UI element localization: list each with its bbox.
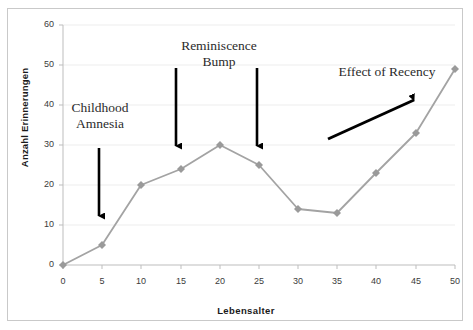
annotation-effect-of-recency: Effect of Recency (322, 64, 452, 80)
chart-figure: 60 50 40 30 20 10 0 0 5 10 15 20 25 30 3… (0, 0, 473, 330)
x-tick-label: 0 (50, 276, 76, 286)
x-tick-label: 45 (403, 276, 429, 286)
x-tick-label: 20 (207, 276, 233, 286)
annotation-reminiscence-line1: Reminiscence (181, 38, 257, 53)
arrow-effect-of-recency (328, 100, 414, 139)
annotation-reminiscence-line2: Bump (202, 54, 235, 69)
data-point-markers (59, 65, 459, 269)
x-axis-title: Lebensalter (36, 305, 456, 316)
annotation-childhood-line2: Amnesia (76, 116, 124, 131)
y-tick-marks (59, 25, 63, 265)
x-tick-marks (63, 265, 455, 269)
y-tick-label: 20 (28, 179, 54, 189)
x-tick-label: 50 (442, 276, 468, 286)
annotation-reminiscence-bump: Reminiscence Bump (159, 38, 279, 71)
annotation-childhood-line1: Childhood (71, 100, 128, 115)
x-tick-label: 30 (285, 276, 311, 286)
x-tick-label: 40 (363, 276, 389, 286)
y-tick-label: 0 (28, 259, 54, 269)
x-tick-label: 5 (89, 276, 115, 286)
y-tick-label: 30 (28, 139, 54, 149)
x-tick-label: 10 (128, 276, 154, 286)
annotation-childhood-amnesia: Childhood Amnesia (62, 100, 138, 133)
y-tick-label: 50 (28, 59, 54, 69)
x-tick-label: 25 (246, 276, 272, 286)
annotation-recency-text: Effect of Recency (338, 64, 435, 79)
x-tick-label: 35 (324, 276, 350, 286)
annotation-arrows (99, 68, 414, 216)
y-tick-label: 40 (28, 99, 54, 109)
y-axis-title: Anzahl Erinnerungen (19, 48, 30, 188)
x-tick-label: 15 (168, 276, 194, 286)
y-tick-label: 60 (28, 19, 54, 29)
plot-area: 60 50 40 30 20 10 0 0 5 10 15 20 25 30 3… (0, 0, 473, 330)
y-tick-label: 10 (28, 219, 54, 229)
